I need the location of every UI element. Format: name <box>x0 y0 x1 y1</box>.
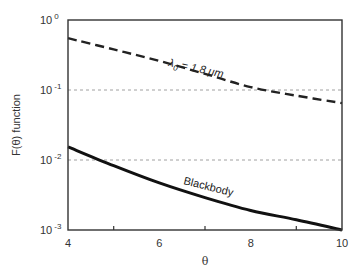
y-axis-label: F(θ) function <box>10 94 22 156</box>
svg-text:100: 100 <box>40 12 59 26</box>
annotation-blackbody: Blackbody <box>183 174 236 198</box>
x-tick-label: 8 <box>248 237 254 249</box>
x-axis-label: θ <box>202 255 209 268</box>
y-tick-label-1: 10-1 <box>40 82 62 96</box>
x-tick-label: 4 <box>65 237 71 249</box>
svg-text:10-2: 10-2 <box>40 152 62 166</box>
y-tick-label-3: 10-3 <box>40 222 62 236</box>
y-tick-label-0: 100 <box>40 12 59 26</box>
svg-text:10-3: 10-3 <box>40 222 62 236</box>
svg-text:10-1: 10-1 <box>40 82 62 96</box>
y-tick-label-2: 10-2 <box>40 152 62 166</box>
x-tick-label: 10 <box>336 237 348 249</box>
annotation-lambda: λ0 = 1.8 μm <box>166 56 225 83</box>
chart: 4 6 8 10 100 10-1 10-2 10-3 F(θ) functio… <box>0 0 357 273</box>
x-tick-label: 6 <box>156 237 162 249</box>
